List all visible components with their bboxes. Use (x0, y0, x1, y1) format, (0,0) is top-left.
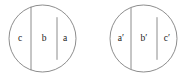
left-region-label-c: c (18, 33, 22, 43)
two-circles-diagram: c b a a′ b′ c′ (0, 0, 188, 77)
figure-container: c b a a′ b′ c′ (0, 0, 188, 77)
right-region-label-b-prime: b′ (141, 33, 148, 43)
right-region-label-c-prime: c′ (164, 33, 170, 43)
right-circle-group: a′ b′ c′ (110, 5, 177, 72)
right-region-label-a-prime: a′ (118, 33, 124, 43)
left-region-label-b: b (42, 33, 47, 43)
left-circle-group: c b a (9, 5, 76, 72)
